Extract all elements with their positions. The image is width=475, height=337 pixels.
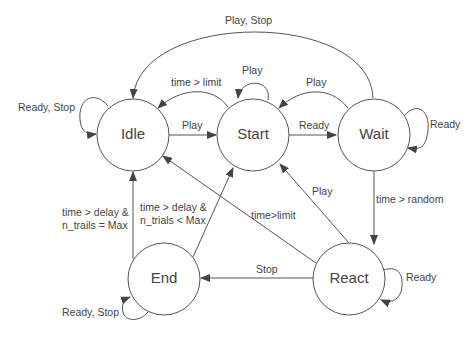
state-start-label: Start bbox=[237, 125, 270, 142]
state-end-label: End bbox=[151, 269, 178, 286]
label-wait-to-start: Play bbox=[306, 76, 327, 88]
state-idle: Idle bbox=[97, 99, 169, 171]
label-react-self: Ready bbox=[406, 271, 437, 283]
label-react-to-end: Stop bbox=[256, 263, 278, 275]
label-wait-to-idle: Play, Stop bbox=[225, 14, 272, 26]
state-wait-label: Wait bbox=[359, 125, 389, 142]
label-end-self: Ready, Stop bbox=[62, 306, 119, 318]
state-end: End bbox=[128, 243, 200, 315]
label-wait-self: Ready bbox=[430, 118, 461, 130]
state-diagram: Idle Start Wait End React Ready, Stop Pl… bbox=[0, 0, 475, 337]
state-react-label: React bbox=[329, 269, 369, 286]
edge-start-self bbox=[238, 83, 268, 100]
label-end-to-idle-line2: n_trails = Max bbox=[62, 219, 128, 231]
label-idle-self: Ready, Stop bbox=[18, 101, 75, 113]
label-react-to-idle: time>limit bbox=[251, 209, 296, 221]
state-react: React bbox=[313, 243, 385, 315]
state-wait: Wait bbox=[338, 99, 410, 171]
label-end-to-start-line1: time > delay & bbox=[140, 201, 207, 213]
label-end-to-idle-line1: time > delay & bbox=[62, 206, 129, 218]
label-start-to-wait: Ready bbox=[299, 119, 330, 131]
edge-wait-to-start bbox=[279, 92, 348, 108]
edge-start-to-idle bbox=[158, 92, 228, 108]
state-start: Start bbox=[217, 99, 289, 171]
label-start-self: Play bbox=[242, 64, 263, 76]
state-idle-label: Idle bbox=[121, 125, 145, 142]
edge-react-to-start bbox=[280, 164, 349, 243]
label-idle-to-start: Play bbox=[182, 119, 203, 131]
label-end-to-start-line2: n_trials < Max bbox=[140, 214, 206, 226]
label-wait-to-react: time > random bbox=[376, 193, 444, 205]
label-start-to-idle: time > limit bbox=[171, 76, 222, 88]
label-react-to-start: Play bbox=[312, 185, 333, 197]
